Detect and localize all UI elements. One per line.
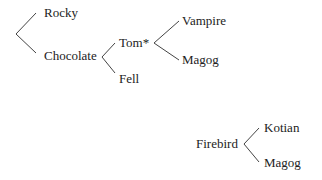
cladogram-diagram: Rocky Chocolate Tom* Fell Vampire Magog … bbox=[0, 0, 322, 180]
edge-root-rocky bbox=[16, 13, 36, 34]
firebird-branch bbox=[244, 128, 259, 162]
edge-chocolate-tom bbox=[102, 43, 115, 57]
node-rocky: Rocky bbox=[44, 5, 78, 20]
node-fell: Fell bbox=[119, 71, 140, 86]
root-branch bbox=[16, 13, 36, 53]
node-kotian: Kotian bbox=[264, 120, 300, 135]
node-magog: Magog bbox=[182, 52, 219, 67]
chocolate-branch bbox=[102, 43, 115, 73]
node-vampire: Vampire bbox=[182, 13, 226, 28]
edge-chocolate-fell bbox=[102, 57, 115, 73]
edge-root-chocolate bbox=[16, 34, 36, 53]
tom-branch bbox=[154, 21, 179, 60]
node-firebird: Firebird bbox=[196, 136, 238, 151]
edge-firebird-kotian bbox=[244, 128, 259, 144]
node-magog-2: Magog bbox=[264, 155, 301, 170]
edge-firebird-magog bbox=[244, 144, 259, 162]
edge-tom-vampire bbox=[154, 21, 179, 43]
node-chocolate: Chocolate bbox=[44, 48, 97, 63]
edge-tom-magog bbox=[154, 43, 179, 60]
node-tom: Tom* bbox=[119, 35, 149, 50]
